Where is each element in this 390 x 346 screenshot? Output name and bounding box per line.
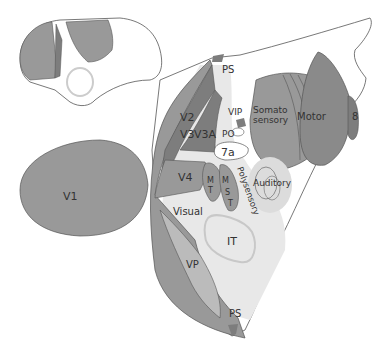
label-mt-m: M <box>207 176 214 185</box>
label-somato: Somato <box>253 105 288 115</box>
label-vip: VIP <box>228 107 243 117</box>
label-visual: Visual <box>173 206 203 217</box>
label-ps-top: PS <box>222 64 234 75</box>
label-v3a: V3A <box>194 128 217 141</box>
label-mst-t: T <box>227 199 233 208</box>
label-mst-s: S <box>225 188 230 197</box>
label-sensory: sensory <box>253 115 289 125</box>
label-v3: V3 <box>180 128 195 141</box>
label-v4: V4 <box>178 171 193 184</box>
label-7a: 7a <box>221 146 235 159</box>
label-motor: Motor <box>297 111 327 122</box>
cortex-flat-map: PS V2 V3 V3A VIP PO 7a Somato sensory Mo… <box>0 0 390 346</box>
label-it: IT <box>227 235 237 248</box>
label-vp: VP <box>186 259 199 270</box>
inset-brain <box>20 18 162 106</box>
label-8: 8 <box>352 111 358 122</box>
label-ps-bottom: PS <box>229 308 241 319</box>
label-mt-t: T <box>207 186 213 195</box>
label-v2: V2 <box>180 111 195 124</box>
area-v1 <box>20 140 148 236</box>
label-v1: V1 <box>63 190 78 203</box>
label-mst-m: M <box>222 176 229 185</box>
label-po: PO <box>222 129 235 139</box>
label-auditory: Auditory <box>253 178 292 188</box>
